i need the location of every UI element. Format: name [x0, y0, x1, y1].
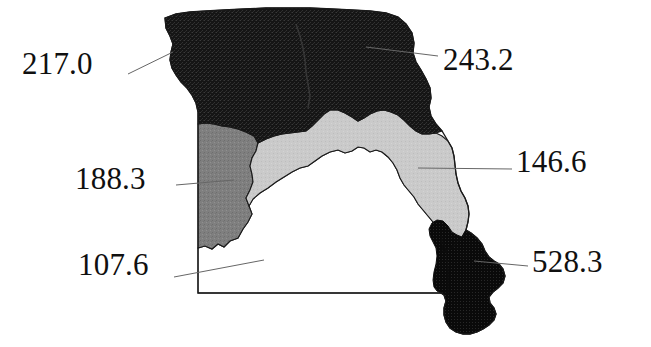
region-value-label-southeast-bootheel: 528.3: [532, 246, 603, 277]
region-value-label-northwest: 217.0: [22, 48, 93, 79]
region-value-label-east-river-corridor: 146.6: [516, 146, 587, 177]
region-value-label-south-central: 107.6: [78, 249, 149, 280]
region-value-label-west: 188.3: [75, 163, 146, 194]
leader-line-217: [128, 52, 173, 74]
map-figure: 217.0 243.2 188.3 146.6 107.6 528.3: [0, 0, 651, 347]
region-value-label-northeast: 243.2: [443, 44, 514, 75]
region-southeast-bootheel[interactable]: [429, 220, 505, 334]
